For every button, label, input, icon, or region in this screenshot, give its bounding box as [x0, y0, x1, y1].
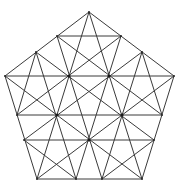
vertex-K — [55, 113, 58, 116]
vertex-S — [101, 178, 103, 180]
segment-I-Q — [37, 76, 174, 179]
vertex-Q — [36, 178, 38, 180]
vertex-B — [56, 35, 58, 37]
vertex-D — [35, 51, 37, 53]
vertex-M — [161, 114, 163, 116]
vertex-C — [120, 35, 122, 37]
segment-A-F — [5, 12, 89, 76]
pentagon-lattice-svg — [0, 0, 188, 192]
line-segments — [5, 12, 174, 179]
segment-A-Q — [37, 12, 89, 179]
segment-B-S — [57, 36, 102, 179]
vertex-R — [75, 178, 77, 180]
segment-D-J — [17, 52, 36, 115]
segment-E-M — [142, 52, 162, 115]
pentagon-diagram — [0, 0, 188, 192]
vertex-N — [23, 139, 25, 141]
vertex-I — [173, 75, 175, 77]
segment-F-Q — [5, 76, 37, 179]
vertex-H — [107, 74, 110, 77]
segment-P-S — [102, 140, 154, 179]
vertex-F — [4, 75, 6, 77]
segment-T-I — [142, 76, 174, 179]
vertex-L — [120, 113, 123, 116]
vertex-T — [141, 178, 143, 180]
vertex-P — [153, 139, 155, 141]
segment-A-T — [89, 12, 142, 179]
vertex-A — [88, 11, 90, 13]
segment-N-R — [24, 140, 76, 179]
vertex-G — [67, 74, 70, 77]
vertex-E — [141, 51, 143, 53]
vertex-O — [87, 138, 90, 141]
vertex-J — [16, 114, 18, 116]
segment-F-T — [5, 76, 142, 179]
segment-I-A — [89, 12, 174, 76]
